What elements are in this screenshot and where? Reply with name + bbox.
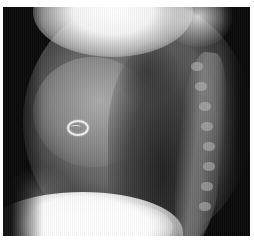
- scan-texture: [3, 7, 250, 236]
- xray-image: [3, 7, 250, 236]
